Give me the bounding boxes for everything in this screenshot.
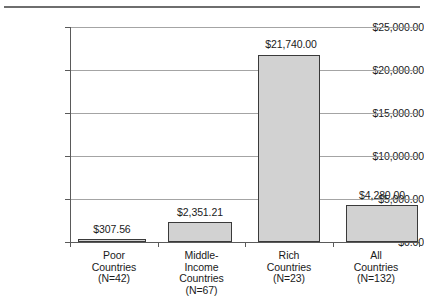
x-tick-1: [158, 242, 159, 247]
page-top-rule: [4, 6, 420, 8]
x-category-label-poor-countries: Poor Countries (N=42): [70, 250, 158, 285]
x-tick-2: [245, 242, 246, 247]
x-tick-0: [70, 242, 71, 247]
x-tick-4: [419, 242, 420, 247]
bar-value-middle-income-countries: $2,351.21: [163, 207, 237, 218]
bar-middle-income-countries: [168, 222, 232, 242]
cat-line: (N=23): [245, 273, 333, 285]
bar-rich-countries: [258, 55, 320, 242]
cat-line: (N=42): [70, 273, 158, 285]
gridline-20000: [70, 70, 420, 71]
cat-line: Poor: [70, 250, 158, 262]
gridline-15000: [70, 113, 420, 114]
cat-line: Rich: [245, 250, 333, 262]
gridline-25000: [70, 27, 420, 28]
cat-line: Middle-: [158, 250, 245, 262]
bar-chart: $25,000.00 $20,000.00 $15,000.00 $10,000…: [0, 0, 424, 299]
cat-line: (N=132): [333, 273, 419, 285]
cat-line: (N=67): [158, 285, 245, 297]
x-category-label-middle-income-countries: Middle- Income Countries (N=67): [158, 250, 245, 296]
x-category-label-rich-countries: Rich Countries (N=23): [245, 250, 333, 285]
x-category-label-all-countries: All Countries (N=132): [333, 250, 419, 285]
bar-all-countries: [346, 205, 418, 242]
cat-line: All: [333, 250, 419, 262]
bar-value-poor-countries: $307.56: [78, 224, 146, 235]
x-tick-3: [333, 242, 334, 247]
bar-value-all-countries: $4,280.00: [341, 190, 423, 201]
bar-value-rich-countries: $21,740.00: [245, 39, 337, 50]
y-axis-line: [70, 27, 71, 242]
gridline-10000: [70, 156, 420, 157]
plot-area: [70, 27, 420, 242]
cat-line: Countries: [158, 273, 245, 285]
